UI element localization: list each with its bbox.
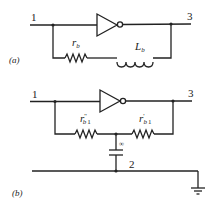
node-1-label-a: 1: [31, 11, 37, 23]
resistor-path-wire-right: [154, 101, 173, 134]
inverter-icon-a: [97, 14, 123, 36]
node-2-label: 2: [129, 158, 135, 170]
resistor-rb1-prime-label: r'b1: [139, 112, 152, 126]
resistor-path-wire-left: [55, 102, 75, 135]
capacitor-value-label: ∞: [119, 140, 124, 148]
inductor-lb-icon: [117, 62, 153, 67]
panel-label-b: (b): [12, 188, 23, 198]
part-a-circuit: 1 3 rb Lb (a): [9, 10, 193, 67]
resistor-rb-label: rb: [72, 36, 80, 50]
output-wire-a: [123, 24, 191, 25]
resistor-rb1-double-prime-icon: [75, 130, 97, 138]
resistor-rb1-prime-icon: [132, 130, 154, 138]
inverter-icon-b: [100, 90, 126, 112]
resistor-rb1-double-prime-label: r''b1: [80, 112, 91, 126]
part-b-circuit: 1 3 r''b1 r'b1 ∞: [12, 87, 205, 198]
inductor-lb-label: Lb: [134, 40, 145, 54]
capacitor-icon: [109, 150, 123, 155]
node-3-label-a: 3: [187, 10, 193, 22]
circuit-diagram: 1 3 rb Lb (a) 1 3: [0, 0, 213, 208]
feedback-wire-a-left: [53, 25, 65, 58]
junction-dot-b-node2: [114, 169, 117, 172]
resistor-rb-icon: [65, 54, 87, 62]
node-1-label-b: 1: [32, 88, 38, 100]
panel-label-a: (a): [9, 55, 20, 65]
ground-icon: [191, 188, 205, 194]
feedback-wire-a-right: [153, 24, 171, 58]
node-3-label-b: 3: [188, 87, 194, 99]
